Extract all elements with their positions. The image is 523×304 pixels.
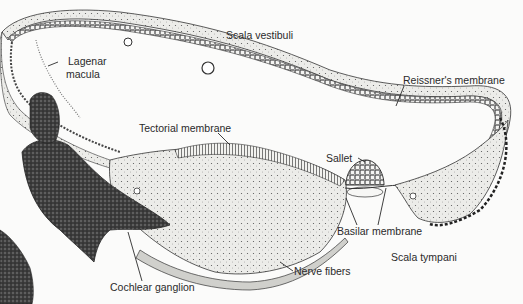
label-cochlear-ganglion: Cochlear ganglion (110, 282, 195, 293)
bone (0, 230, 33, 304)
label-lagenar-macula-line1: Lagenar (68, 56, 107, 67)
label-scala-tympani: Scala tympani (391, 252, 457, 263)
label-basilar-membrane: Basilar membrane (337, 226, 422, 237)
label-nerve-fibers: Nerve fibers (294, 266, 351, 277)
label-tectorial-membrane: Tectorial membrane (139, 123, 231, 134)
label-scala-vestibuli: Scala vestibuli (226, 30, 293, 41)
label-reissners-membrane: Reissner's membrane (403, 75, 505, 86)
cochlear-duct-diagram: Scala vestibuli Lagenar macula Reissner'… (0, 0, 523, 304)
label-sallet: Sallet (326, 153, 352, 164)
label-lagenar-macula-line2: macula (66, 69, 100, 80)
